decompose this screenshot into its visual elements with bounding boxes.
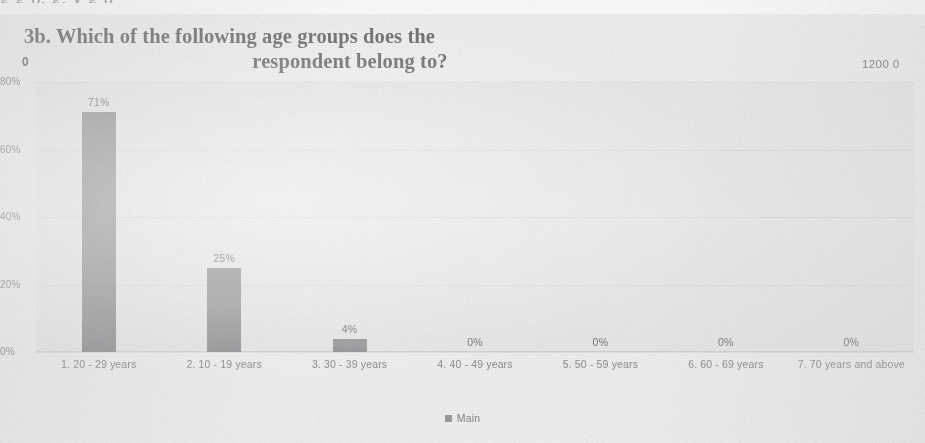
bar-value-label: 0% [843, 336, 859, 348]
x-axis-category-label: 6. 60 - 69 years [663, 358, 788, 371]
y-axis-tick-label: 0% [0, 346, 32, 357]
x-axis-category-label: 4. 40 - 49 years [412, 358, 537, 371]
bar-value-label: 0% [718, 336, 734, 348]
bar-group: 0% [538, 82, 663, 352]
scanned-chart-figure: g g p, g, y g p 3b. Which of the followi… [0, 0, 925, 443]
y-axis-tick-label: 60% [0, 144, 32, 155]
x-axis-category-labels: 1. 20 - 29 years2. 10 - 19 years3. 30 - … [36, 358, 914, 398]
chart-title-line-1: 3b. Which of the following age groups do… [24, 24, 624, 49]
y-axis-tick-label: 40% [0, 211, 32, 222]
x-axis-category-label: 1. 20 - 29 years [36, 358, 161, 371]
chart-title: 3b. Which of the following age groups do… [24, 24, 624, 74]
x-axis-category-label: 7. 70 years and above [789, 358, 914, 371]
bar-value-label: 4% [342, 323, 358, 335]
bar-group: 4% [287, 82, 412, 352]
bars-layer: 71%25%4%0%0%0%0% [36, 82, 914, 352]
bar-value-label: 0% [593, 336, 609, 348]
bar-group: 71% [36, 82, 161, 352]
chart-title-line-2: respondent belong to? [24, 49, 624, 74]
chart-legend: Main [0, 412, 925, 424]
x-axis-category-label: 3. 30 - 39 years [287, 358, 412, 371]
bar-group: 0% [789, 82, 914, 352]
legend-label: Main [457, 412, 481, 424]
bar[interactable] [82, 112, 116, 352]
page-marker-left: 0 [22, 55, 29, 69]
bar[interactable] [207, 268, 241, 352]
page-marker-right: 1200 0 [862, 58, 900, 70]
cropped-text-above-chart: g g p, g, y g p [0, 0, 925, 3]
bar-value-label: 25% [213, 252, 235, 264]
legend-color-swatch [445, 415, 452, 422]
y-axis-tick-label: 80% [0, 76, 32, 87]
bar[interactable] [333, 339, 367, 353]
y-axis-tick-label: 20% [0, 279, 32, 290]
bar-value-label: 0% [467, 336, 483, 348]
bar-group: 0% [412, 82, 537, 352]
bar-group: 0% [663, 82, 788, 352]
x-axis-category-label: 5. 50 - 59 years [538, 358, 663, 371]
x-axis-category-label: 2. 10 - 19 years [161, 358, 286, 371]
gridline [36, 352, 914, 353]
bar-value-label: 71% [88, 96, 110, 108]
bar-group: 25% [161, 82, 286, 352]
